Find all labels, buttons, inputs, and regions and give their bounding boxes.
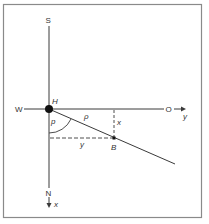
label-origin-h: H	[52, 97, 58, 106]
frame	[4, 5, 202, 218]
label-south: S	[46, 16, 51, 25]
label-north: N	[46, 189, 52, 198]
label-y-offset: y	[79, 140, 85, 149]
label-point-b: B	[111, 143, 117, 152]
label-x-axis: x	[53, 200, 59, 209]
label-distance-rho: ρ	[83, 112, 89, 121]
y-axis-arrow-icon	[181, 107, 186, 112]
label-x-offset: x	[116, 118, 122, 127]
x-axis-arrow-icon	[47, 203, 52, 208]
origin-point-h	[45, 105, 53, 113]
label-y-axis: y	[182, 112, 188, 121]
label-east: O	[166, 105, 172, 114]
label-angle-p: p	[50, 117, 56, 126]
polar-coordinate-diagram: S W O N H B p ρ x y y x	[0, 0, 209, 224]
label-west: W	[15, 105, 23, 114]
point-b-marker	[113, 137, 116, 140]
distance-ray	[49, 109, 175, 164]
